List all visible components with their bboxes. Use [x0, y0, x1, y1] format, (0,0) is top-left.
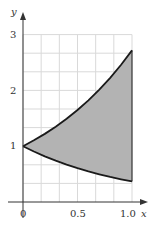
y-tick-3: 3 — [10, 29, 16, 40]
y-axis-label: y — [10, 6, 17, 17]
y-axis-arrow-icon — [20, 12, 26, 20]
x-tick-0: 0 — [20, 208, 26, 219]
chart: y x 3 2 1 0 0.5 1.0 — [0, 0, 151, 231]
x-axis-label: x — [141, 208, 147, 219]
x-tick-1.0: 1.0 — [120, 208, 136, 219]
x-tick-0.5: 0.5 — [70, 208, 86, 219]
y-tick-2: 2 — [10, 85, 16, 96]
y-tick-1: 1 — [10, 140, 16, 151]
x-axis-arrow-icon — [140, 199, 148, 205]
